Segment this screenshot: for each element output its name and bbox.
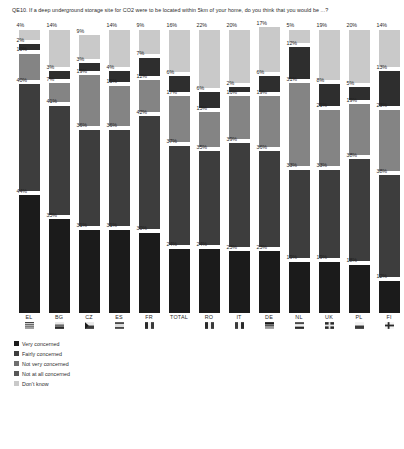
bar-segment-not-very-concerned[interactable]: 19% <box>259 96 280 147</box>
bar-segment-dont-know[interactable]: 16% <box>169 30 190 73</box>
bar-group-ro[interactable]: 22%6%13%35%24% <box>194 21 224 313</box>
axis-label-cz[interactable]: CZ <box>74 314 104 329</box>
bar-segment-not-very-concerned[interactable]: 16% <box>229 96 250 139</box>
bar-segment-not-at-all-concerned[interactable]: 13% <box>379 71 400 106</box>
bar-segment-very-concerned[interactable]: 24% <box>169 249 190 313</box>
bar-segment-not-very-concerned[interactable]: 13% <box>199 112 220 147</box>
bar-group-total[interactable]: 16%6%17%37%24% <box>164 21 194 313</box>
axis-label-es[interactable]: ES <box>104 314 134 329</box>
bar-group-pl[interactable]: 20%5%19%38%18% <box>344 21 374 313</box>
bar-segment-fairly-concerned[interactable]: 36% <box>109 130 130 226</box>
segment-value-label: 19% <box>317 254 327 261</box>
legend-item[interactable]: Not at all concerned <box>14 369 384 379</box>
bar-segment-fairly-concerned[interactable]: 41% <box>49 106 70 215</box>
bar-segment-not-very-concerned[interactable]: 17% <box>169 96 190 141</box>
segment-value-label: 33% <box>287 162 297 169</box>
bar-segment-fairly-concerned[interactable]: 35% <box>199 151 220 244</box>
bar-group-el[interactable]: 4%2%10%40%44% <box>14 21 44 313</box>
bar-segment-very-concerned[interactable]: 19% <box>319 262 340 313</box>
bar-segment-very-concerned[interactable]: 30% <box>139 233 160 313</box>
bar-segment-dont-know[interactable]: 14% <box>379 30 400 67</box>
axis-label-total[interactable]: TOTAL <box>164 314 194 329</box>
segment-value-label: 19% <box>287 254 297 261</box>
legend-item[interactable]: Very concerned <box>14 339 384 349</box>
bar-group-es[interactable]: 14%4%15%36%31% <box>104 21 134 313</box>
segment-value-label: 35% <box>197 144 207 151</box>
legend-item[interactable]: Don't know <box>14 379 384 389</box>
bar-group-fi[interactable]: 14%13%23%38%12% <box>374 21 404 313</box>
bar-segment-very-concerned[interactable]: 24% <box>199 249 220 313</box>
bar-segment-fairly-concerned[interactable]: 33% <box>319 170 340 258</box>
flag-icon-es <box>115 322 124 329</box>
bar-segment-not-very-concerned[interactable]: 21% <box>319 110 340 166</box>
axis-label-it[interactable]: IT <box>224 314 254 329</box>
bar-segment-dont-know[interactable]: 19% <box>319 30 340 81</box>
bar-segment-fairly-concerned[interactable]: 38% <box>379 175 400 276</box>
bar-segment-fairly-concerned[interactable]: 38% <box>349 159 370 260</box>
bar-segment-very-concerned[interactable]: 31% <box>109 230 130 313</box>
bar-segment-not-very-concerned[interactable]: 31% <box>289 83 310 166</box>
bar-group-bg[interactable]: 14%3%7%41%35% <box>44 21 74 313</box>
bar-segment-fairly-concerned[interactable]: 40% <box>19 84 40 191</box>
bar-segment-not-very-concerned[interactable]: 15% <box>109 86 130 126</box>
bar-stack: 20%5%19%38%18% <box>344 21 374 313</box>
bar-segment-dont-know[interactable]: 14% <box>49 30 70 67</box>
segment-value-label: 23% <box>377 102 387 109</box>
axis-label-uk[interactable]: UK <box>314 314 344 329</box>
axis-label-fr[interactable]: FR <box>134 314 164 329</box>
legend-item[interactable]: Not very concerned <box>14 359 384 369</box>
bar-segment-very-concerned[interactable]: 35% <box>49 219 70 312</box>
bar-segment-not-at-all-concerned[interactable]: 12% <box>289 47 310 79</box>
bar-segment-not-very-concerned[interactable]: 23% <box>379 110 400 171</box>
bar-segment-very-concerned[interactable]: 31% <box>79 230 100 313</box>
axis-label-fi[interactable]: FI <box>374 314 404 329</box>
bar-segment-very-concerned[interactable]: 12% <box>379 281 400 313</box>
bar-group-de[interactable]: 17%6%19%36%23% <box>254 21 284 313</box>
bar-segment-dont-know[interactable]: 20% <box>349 30 370 83</box>
flag-placeholder <box>175 322 184 329</box>
country-code: DE <box>265 314 273 320</box>
bar-segment-fairly-concerned[interactable]: 33% <box>289 170 310 258</box>
bar-segment-dont-know[interactable]: 14% <box>109 30 130 67</box>
bar-group-it[interactable]: 20%2%16%39%23% <box>224 21 254 313</box>
bar-segment-fairly-concerned[interactable]: 37% <box>169 146 190 245</box>
bar-segment-fairly-concerned[interactable]: 39% <box>229 143 250 247</box>
bar-segment-very-concerned[interactable]: 23% <box>229 251 250 312</box>
bar-segment-not-very-concerned[interactable]: 19% <box>79 75 100 126</box>
bar-group-fr[interactable]: 9%7%12%42%30% <box>134 21 164 313</box>
segment-value-label: 6% <box>257 69 265 76</box>
legend-item[interactable]: Fairly concerned <box>14 349 384 359</box>
bar-segment-very-concerned[interactable]: 23% <box>259 251 280 312</box>
axis-label-el[interactable]: EL <box>14 314 44 329</box>
segment-value-label: 39% <box>227 136 237 143</box>
bar-segment-dont-know[interactable]: 20% <box>229 30 250 83</box>
bar-segment-very-concerned[interactable]: 44% <box>19 195 40 312</box>
segment-value-label: 40% <box>17 77 27 84</box>
bar-group-uk[interactable]: 19%8%21%33%19% <box>314 21 344 313</box>
bar-segment-fairly-concerned[interactable]: 36% <box>79 130 100 226</box>
bar-group-cz[interactable]: 9%3%19%36%31% <box>74 21 104 313</box>
axis-label-nl[interactable]: NL <box>284 314 314 329</box>
axis-label-ro[interactable]: RO <box>194 314 224 329</box>
bar-segment-fairly-concerned[interactable]: 36% <box>259 151 280 247</box>
segment-value-label: 13% <box>197 105 207 112</box>
axis-label-pl[interactable]: PL <box>344 314 374 329</box>
segment-value-label: 36% <box>107 122 117 129</box>
bar-segment-dont-know[interactable]: 22% <box>199 30 220 89</box>
bar-segment-dont-know[interactable]: 17% <box>259 27 280 72</box>
segment-value-label: 19% <box>257 89 267 96</box>
bar-segment-not-very-concerned[interactable]: 12% <box>139 80 160 112</box>
bar-segment-fairly-concerned[interactable]: 42% <box>139 116 160 228</box>
legend-swatch-icon <box>14 381 19 386</box>
bar-segment-not-very-concerned[interactable]: 19% <box>349 104 370 155</box>
chart-legend: Very concernedFairly concernedNot very c… <box>6 339 384 389</box>
legend-label: Not at all concerned <box>22 371 70 377</box>
axis-label-de[interactable]: DE <box>254 314 284 329</box>
segment-value-label: 41% <box>47 98 57 105</box>
axis-label-bg[interactable]: BG <box>44 314 74 329</box>
segment-value-label: 24% <box>197 241 207 248</box>
bar-group-nl[interactable]: 5%12%31%33%19% <box>284 21 314 313</box>
bar-segment-very-concerned[interactable]: 19% <box>289 262 310 313</box>
segment-value-label: 14% <box>107 22 117 29</box>
bar-segment-very-concerned[interactable]: 18% <box>349 265 370 313</box>
